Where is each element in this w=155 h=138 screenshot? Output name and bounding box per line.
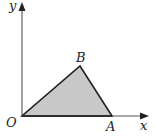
- y-axis-arrow-icon: [19, 2, 26, 11]
- triangle-oab: [22, 66, 112, 116]
- origin-label: O: [6, 115, 17, 130]
- vertex-a-label: A: [105, 119, 115, 134]
- y-axis-label: y: [8, 0, 17, 13]
- coordinate-diagram: y x O A B: [0, 0, 155, 138]
- x-axis-label: x: [140, 118, 148, 133]
- vertex-b-label: B: [75, 50, 86, 65]
